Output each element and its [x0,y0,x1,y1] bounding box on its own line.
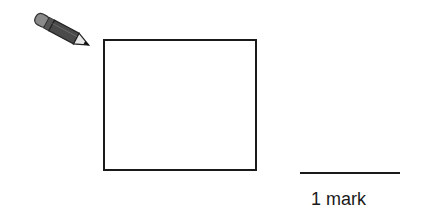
mark-divider [300,172,400,174]
mark-label: 1 mark [311,189,366,210]
pencil-icon [28,12,100,52]
answer-box[interactable] [103,39,257,171]
